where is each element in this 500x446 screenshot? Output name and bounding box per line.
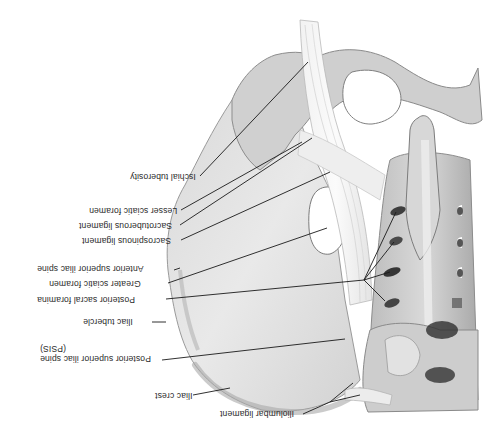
label-sacrotuberous-ligament: Sacrotuberous ligament bbox=[79, 221, 172, 231]
label-iliac-crest: Iliac crest bbox=[155, 391, 192, 401]
pelvis-ligaments-illustration bbox=[0, 0, 500, 446]
label-posterior-sacral-foramina: Posterior sacral foramina bbox=[37, 295, 135, 305]
label-iliolumbar-ligament: Iliolumbar ligament bbox=[220, 409, 294, 419]
label-lesser-sciatic-foramen: Lesser sciatic foramen bbox=[89, 206, 177, 216]
label-sacrospinous-ligament: Sacrospinous ligament bbox=[82, 236, 171, 246]
label-iliac-tubercle: Iliac tubercle bbox=[83, 317, 133, 327]
label-greater-sciatic-foramen: Greater sciatic foramen bbox=[49, 279, 141, 289]
label-ischial-tuberosity: Ischial tuberosity bbox=[130, 172, 196, 182]
label-psis: Posterior superior iliac spine (PSIS) bbox=[40, 344, 151, 364]
label-anterior-superior-iliac-spine: Anterior superior iliac spine bbox=[37, 264, 144, 274]
